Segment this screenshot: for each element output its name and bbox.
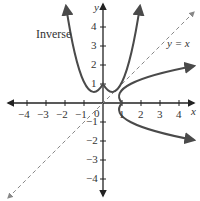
y-tick-label: 4 bbox=[91, 21, 97, 32]
graph-canvas bbox=[0, 0, 200, 201]
y-tick-label: −2 bbox=[86, 135, 98, 146]
x-tick-label: −2 bbox=[56, 109, 68, 120]
y-tick-label: −3 bbox=[86, 154, 98, 165]
y-tick-label: 1 bbox=[91, 78, 97, 89]
y-tick-label: −4 bbox=[86, 173, 98, 184]
inverse-label: Inverse bbox=[36, 28, 71, 40]
x-tick-label: 4 bbox=[176, 109, 182, 120]
x-tick-label: −4 bbox=[18, 109, 30, 120]
x-tick-label: 2 bbox=[138, 109, 144, 120]
x-tick-label: 1 bbox=[119, 109, 125, 120]
y-axis-label: y bbox=[94, 2, 99, 13]
x-axis-label: x bbox=[191, 106, 196, 117]
y-tick-label: 2 bbox=[91, 59, 97, 70]
x-tick-label: 3 bbox=[157, 109, 163, 120]
y-tick-label: 3 bbox=[91, 40, 97, 51]
x-tick-label: −3 bbox=[37, 109, 49, 120]
x-tick-label: −1 bbox=[75, 109, 87, 120]
identity-line-label: y = x bbox=[167, 38, 190, 49]
y-tick-label: −1 bbox=[86, 116, 98, 127]
